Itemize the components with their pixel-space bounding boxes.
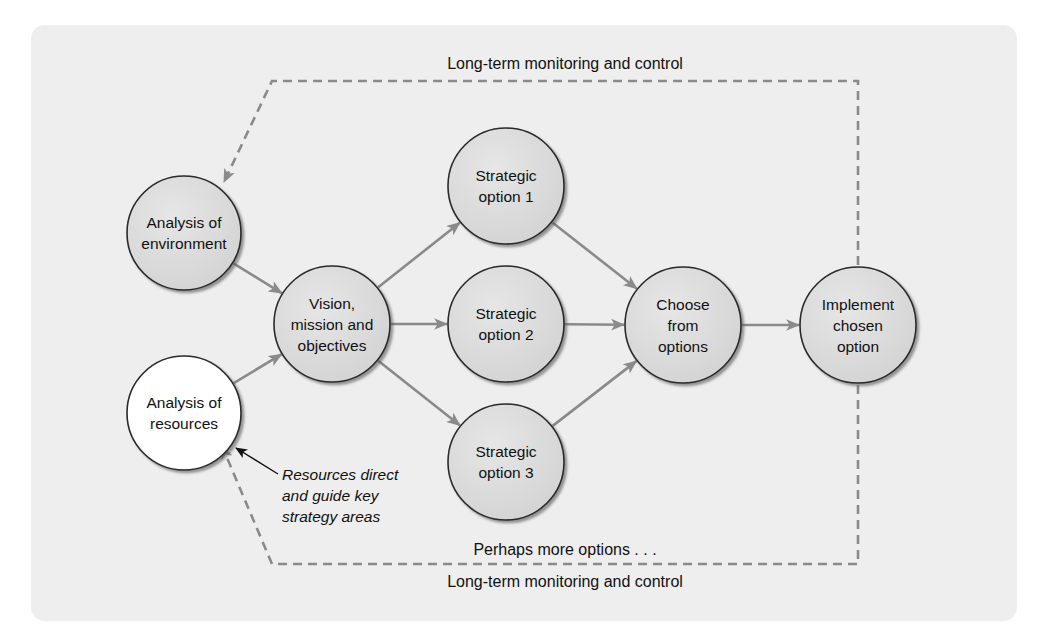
node-circle [127,176,241,290]
bottom-monitoring-label: Long-term monitoring and control [447,573,683,590]
node-label-line: option 1 [478,188,533,205]
node-circle [127,356,241,470]
node-label-line: options [658,338,708,355]
arrow-res-to-vision [234,354,282,383]
node-label-line: Strategic [475,443,536,460]
node-label-line: Analysis of [147,214,223,231]
node-label-line: option 3 [478,464,533,481]
note-line-2: and guide key [282,487,380,504]
node-opt2: Strategicoption 2 [448,266,564,382]
node-label-line: option [837,338,879,355]
note-line-1: Resources direct [282,466,399,483]
arrow-opt3-to-choose [553,361,637,426]
node-label-line: Choose [656,296,709,313]
node-label-line: Strategic [475,167,536,184]
node-env: Analysis ofenvironment [127,176,241,290]
node-res: Analysis ofresources [127,356,241,470]
node-opt3: Strategicoption 3 [448,404,564,520]
node-label-line: mission and [291,316,374,333]
node-circle [448,404,564,520]
node-opt1: Strategicoption 1 [448,128,564,244]
node-implement: Implementchosenoption [800,267,916,383]
arrow-env-to-vision [233,263,281,293]
arrow-vision-to-opt3 [378,361,460,426]
node-label-line: Implement [822,296,895,313]
strategy-process-diagram: Analysis ofenvironmentAnalysis ofresourc… [0,0,1053,640]
node-label-line: Vision, [309,295,355,312]
node-vision: Vision,mission andobjectives [274,266,390,382]
node-circle [448,266,564,382]
node-label-line: Analysis of [147,394,223,411]
node-circle [448,128,564,244]
node-label-line: option 2 [478,326,533,343]
node-label-line: Strategic [475,305,536,322]
note-line-3: strategy areas [282,508,380,525]
more-options-label: Perhaps more options . . . [473,541,656,558]
note-arrow-icon [236,448,278,474]
node-label-line: chosen [833,317,883,334]
resources-note: Resources direct and guide key strategy … [236,448,399,525]
top-monitoring-label: Long-term monitoring and control [447,55,683,72]
arrow-vision-to-opt1 [378,223,460,288]
node-choose: Choosefromoptions [625,267,741,383]
node-label-line: resources [150,415,218,432]
node-label-line: objectives [298,337,367,354]
node-label-line: from [668,317,699,334]
arrow-opt1-to-choose [552,222,636,288]
node-label-line: environment [141,235,227,252]
